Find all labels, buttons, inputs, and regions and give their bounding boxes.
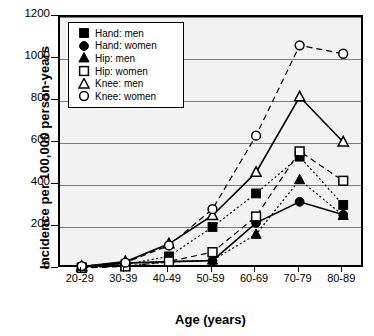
y-tick-mark: [51, 183, 58, 184]
y-tick-mark: [51, 225, 58, 226]
y-tick-label: 1000: [6, 49, 50, 61]
chart-legend: Hand: menHand: womenHip: menHip: womenKn…: [68, 22, 184, 108]
x-tick-mark: [123, 267, 124, 272]
x-axis-title: Age (years): [58, 312, 363, 327]
legend-label: Hip: women: [95, 66, 148, 77]
data-point: [77, 262, 86, 271]
y-tick-label: 0: [6, 259, 50, 271]
filled-circle-icon: [73, 40, 95, 52]
legend-label: Hand: women: [95, 40, 157, 51]
y-axis-title: Incidence per 100,000 person-years: [37, 28, 52, 288]
legend-label: Knee: women: [95, 91, 156, 102]
data-point: [165, 257, 174, 266]
y-tick-label: 1200: [6, 7, 50, 19]
y-tick-mark: [51, 267, 58, 268]
legend-item: Hip: men: [73, 52, 179, 65]
data-point: [339, 49, 348, 58]
x-tick-mark: [80, 267, 81, 272]
x-tick-mark: [298, 267, 299, 272]
data-point: [295, 91, 305, 100]
x-tick-mark: [167, 267, 168, 272]
legend-item: Hand: men: [73, 27, 179, 40]
y-tick-label: 200: [6, 217, 50, 229]
data-point: [208, 205, 217, 214]
filled-triangle-icon: [73, 52, 95, 64]
data-point: [252, 189, 261, 198]
open-triangle-icon: [73, 78, 95, 90]
open-circle-icon: [73, 90, 95, 102]
data-point: [121, 258, 130, 267]
y-tick-mark: [51, 15, 58, 16]
y-tick-mark: [51, 57, 58, 58]
data-point: [339, 176, 348, 185]
x-tick-label: 80-89: [314, 272, 368, 284]
x-tick-mark: [211, 267, 212, 272]
data-point: [208, 223, 217, 232]
data-point: [251, 229, 261, 238]
data-point: [251, 167, 261, 176]
y-tick-label: 800: [6, 91, 50, 103]
y-tick-mark: [51, 99, 58, 100]
data-point: [295, 197, 304, 206]
data-point: [165, 241, 174, 250]
y-tick-label: 400: [6, 175, 50, 187]
open-square-icon: [73, 65, 95, 77]
data-point: [208, 248, 217, 257]
legend-item: Hip: women: [73, 65, 179, 78]
y-tick-label: 600: [6, 133, 50, 145]
legend-item: Hand: women: [73, 40, 179, 53]
x-tick-mark: [254, 267, 255, 272]
x-tick-mark: [341, 267, 342, 272]
data-point: [252, 212, 261, 221]
series-knee-men: [77, 91, 349, 270]
data-point: [295, 41, 304, 50]
filled-square-icon: [73, 27, 95, 39]
legend-label: Hand: men: [95, 28, 144, 39]
chart-figure: Incidence per 100,000 person-years 02004…: [0, 0, 374, 336]
legend-item: Knee: men: [73, 77, 179, 90]
data-point: [252, 131, 261, 140]
legend-label: Hip: men: [95, 53, 135, 64]
data-point: [339, 201, 348, 210]
data-point: [295, 147, 304, 156]
legend-item: Knee: women: [73, 90, 179, 103]
legend-label: Knee: men: [95, 78, 143, 89]
y-tick-mark: [51, 141, 58, 142]
data-point: [295, 174, 305, 183]
